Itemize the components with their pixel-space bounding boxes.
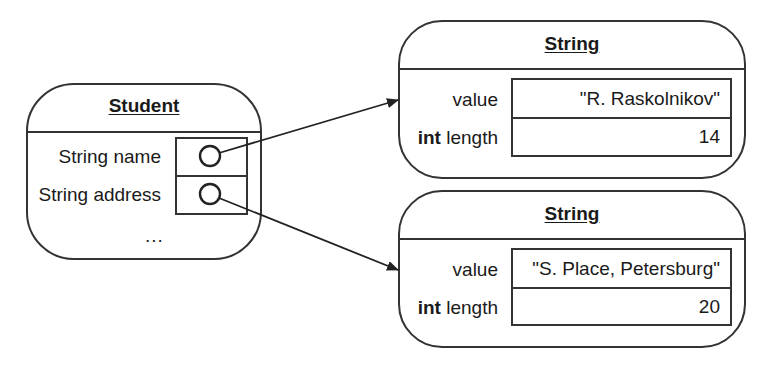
length-label-2: int length bbox=[418, 297, 498, 319]
length-label-1: int length bbox=[418, 127, 498, 149]
string-title-1: String bbox=[400, 33, 744, 55]
student-divider bbox=[28, 131, 260, 133]
int-type-1: int bbox=[418, 127, 441, 148]
value-label-2: value bbox=[453, 259, 498, 281]
int-type-2: int bbox=[418, 297, 441, 318]
string-object-2: String value int length "S. Place, Peter… bbox=[398, 190, 746, 348]
more-fields-ellipsis: ... bbox=[145, 225, 164, 247]
student-object: Student String name String address ... bbox=[26, 83, 262, 260]
student-title: Student bbox=[28, 95, 260, 117]
length-name-2: length bbox=[441, 297, 498, 318]
string-title-2: String bbox=[400, 203, 744, 225]
value-cell-1: "R. Raskolnikov" bbox=[513, 80, 730, 119]
field-label-address: String address bbox=[38, 184, 161, 206]
value-cells-1: "R. Raskolnikov" 14 bbox=[511, 78, 732, 157]
length-cell-2: 20 bbox=[513, 289, 730, 324]
string-divider-1 bbox=[400, 68, 744, 70]
length-cell-1: 14 bbox=[513, 119, 730, 155]
value-cell-2: "S. Place, Petersburg" bbox=[513, 250, 730, 289]
field-label-name: String name bbox=[59, 146, 161, 168]
string-object-1: String value int length "R. Raskolnikov"… bbox=[398, 20, 746, 179]
name-reference-cell bbox=[177, 139, 246, 177]
value-label-1: value bbox=[453, 89, 498, 111]
value-cells-2: "S. Place, Petersburg" 20 bbox=[511, 248, 732, 326]
length-name-1: length bbox=[441, 127, 498, 148]
string-divider-2 bbox=[400, 238, 744, 240]
reference-cells bbox=[175, 137, 248, 215]
